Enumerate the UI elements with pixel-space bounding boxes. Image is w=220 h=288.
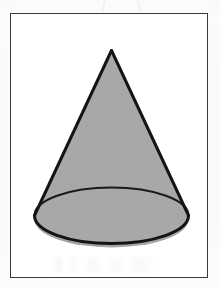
scan-artifact-right [208,0,220,288]
scan-artifact-top [0,0,220,14]
cone-solid-icon [35,51,189,248]
figure-page [0,0,220,288]
cone-lateral-surface [35,51,189,244]
figure-frame [10,13,208,278]
scan-artifact-bottom [0,278,220,288]
cone-figure [11,14,206,276]
